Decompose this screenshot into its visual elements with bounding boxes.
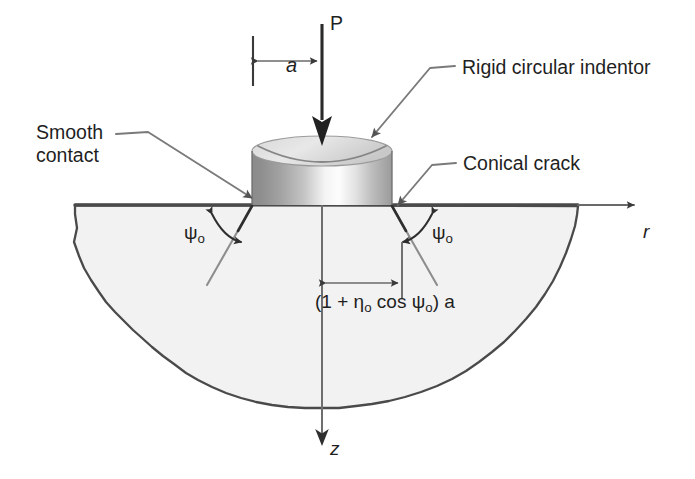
leader-rigid-indentor — [372, 66, 455, 137]
label-cone-angle-right: ψo — [432, 222, 453, 246]
formula-psi-subscript: o — [425, 300, 432, 315]
smooth-contact-line-2: contact — [36, 144, 103, 167]
smooth-contact-line-1: Smooth — [36, 121, 103, 143]
psi-right-symbol: ψ — [432, 222, 446, 243]
rigid-circular-indentor — [252, 136, 392, 205]
psi-left-symbol: ψ — [184, 222, 198, 243]
label-smooth-contact: Smooth contact — [36, 121, 103, 166]
label-axis-z: z — [330, 438, 340, 460]
psi-right-subscript: o — [446, 231, 453, 246]
label-rigid-circular-indentor: Rigid circular indentor — [462, 56, 651, 79]
formula-open-paren: (1 + — [315, 291, 354, 312]
label-axis-r: r — [643, 221, 649, 243]
leader-smooth-contact — [116, 132, 252, 198]
leader-conical-crack — [398, 163, 456, 205]
applied-load-P — [312, 24, 332, 146]
label-cone-angle-left: ψo — [184, 222, 205, 246]
psi-left-subscript: o — [198, 231, 205, 246]
label-applied-load: P — [330, 12, 343, 35]
contact-radius-dimension — [253, 36, 317, 86]
formula-close: ) a — [433, 291, 455, 312]
label-contact-radius: a — [286, 54, 297, 77]
formula-cos: cos — [372, 291, 412, 312]
label-ring-crack-radius-formula: (1 + ηo cos ψo) a — [315, 291, 455, 315]
label-conical-crack: Conical crack — [463, 152, 580, 175]
formula-eta: η — [354, 291, 365, 312]
formula-eta-subscript: o — [364, 300, 371, 315]
formula-psi: ψ — [412, 291, 426, 312]
hertzian-cone-crack-figure: Smooth contact Rigid circular indentor C… — [0, 0, 695, 479]
